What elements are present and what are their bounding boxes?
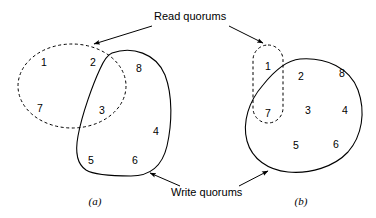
panel-caption-a: (a) [89,196,102,207]
node-label: 6 [132,155,138,166]
node-label: 2 [298,71,304,82]
node-label: 2 [90,57,96,68]
node-label: 3 [99,105,105,116]
quorum-diagram: Read quorums Write quorums 1 2 8 7 3 4 5… [0,0,376,218]
node-label: 8 [136,63,142,74]
node-label: 7 [265,108,271,119]
write-quorums-leader-right [239,171,268,186]
node-label: 5 [293,140,299,151]
write-quorums-leader-left [150,173,180,186]
read-quorums-leader-right [229,26,263,43]
read-quorums-leader-left [94,26,152,44]
node-label: 1 [41,57,47,68]
node-label: 6 [333,139,339,150]
node-label: 1 [265,61,271,72]
node-label: 4 [342,105,348,116]
panel-caption-b: (b) [295,196,308,207]
write-quorums-label: Write quorums [171,187,242,198]
node-label: 8 [339,68,345,79]
node-label: 3 [305,105,311,116]
read-quorums-label: Read quorums [154,11,226,22]
read-quorum-shape-a [18,44,126,128]
node-label: 5 [88,155,94,166]
node-label: 4 [153,126,159,137]
node-label: 7 [37,103,43,114]
